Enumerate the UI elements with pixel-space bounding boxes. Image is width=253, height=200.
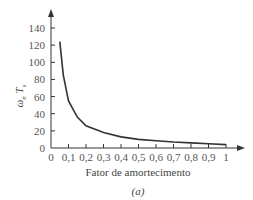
y-axis-label: ωn Ts xyxy=(13,84,28,107)
x-tick-label: 0,7 xyxy=(167,151,181,163)
y-tick-label: 40 xyxy=(34,108,46,120)
x-tick-label: 0,1 xyxy=(62,151,76,163)
x-tick-label: 1 xyxy=(223,151,229,163)
data-line xyxy=(60,42,226,145)
figure-caption: (a) xyxy=(132,185,145,198)
y-tick-label: 120 xyxy=(29,39,46,51)
y-axis-arrow-icon xyxy=(48,9,54,17)
y-tick-label: 0 xyxy=(40,142,46,154)
y-tick-label: 100 xyxy=(29,56,46,68)
x-tick-label: 0,5 xyxy=(132,151,146,163)
chart: 020406080100120140 00,10,20,30,40,50,60,… xyxy=(0,0,253,200)
x-axis-label: Fator de amortecimento xyxy=(85,166,191,178)
x-tick-label: 0,6 xyxy=(149,151,163,163)
x-tick-label: 0 xyxy=(48,151,54,163)
x-tick-label: 0,8 xyxy=(184,151,198,163)
y-tick-label: 60 xyxy=(34,91,46,103)
x-ticks: 00,10,20,30,40,50,60,70,80,91 xyxy=(48,144,229,163)
x-axis-arrow-icon xyxy=(237,145,245,151)
x-tick-label: 0,4 xyxy=(114,151,128,163)
x-tick-label: 0,2 xyxy=(79,151,93,163)
y-axis xyxy=(48,9,54,148)
y-tick-label: 20 xyxy=(34,125,46,137)
y-tick-label: 140 xyxy=(29,22,46,34)
x-tick-label: 0,9 xyxy=(202,151,216,163)
x-tick-label: 0,3 xyxy=(97,151,111,163)
y-tick-label: 80 xyxy=(34,73,46,85)
